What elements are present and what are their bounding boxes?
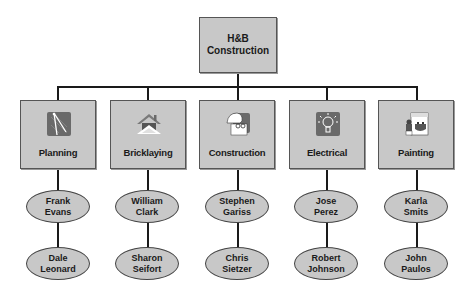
staff-last: Perez [314, 207, 338, 218]
staff-john-paulos: John Paulos [384, 247, 448, 280]
staff-first: Frank [46, 196, 71, 207]
root-connector [237, 72, 239, 87]
staff-robert-johnson: Robert Johnson [294, 247, 358, 280]
staff-first: Karla [405, 196, 428, 207]
lightbulb-icon [315, 111, 341, 137]
dept-label-planning: Planning [21, 147, 95, 158]
root-node: H&B Construction [199, 17, 277, 73]
dept-construction: Construction [199, 100, 275, 169]
staff-stephen-gariss: Stephen Gariss [205, 190, 269, 223]
staff-last: Leonard [40, 264, 76, 275]
hardhat-worker-icon [225, 111, 251, 137]
dept-label-bricklaying: Bricklaying [111, 147, 185, 158]
dept-planning: Planning [20, 100, 96, 169]
staff-first: Chris [225, 253, 248, 264]
staff-dale-leonard: Dale Leonard [26, 247, 90, 280]
staff-last: Clark [136, 207, 159, 218]
staff-last: Johnson [307, 264, 345, 275]
staff-first: Robert [312, 253, 341, 264]
staff-william-clark: William Clark [115, 190, 179, 223]
staff-last: Sietzer [222, 264, 252, 275]
connector-bricklaying [147, 86, 149, 100]
staff-first: Stephen [219, 196, 255, 207]
staff-first: John [405, 253, 427, 264]
connector-electrical [326, 86, 328, 100]
staff-jose-perez: Jose Perez [294, 190, 358, 223]
staff-first: Dale [48, 253, 67, 264]
dept-label-electrical: Electrical [290, 147, 364, 158]
connector-painting [416, 86, 418, 100]
staff-last: Paulos [401, 264, 431, 275]
drafting-compass-icon [46, 111, 72, 137]
staff-last: Gariss [223, 207, 251, 218]
dept-painting: Painting [378, 100, 454, 169]
staff-first: Jose [316, 196, 337, 207]
house-roof-icon [136, 111, 162, 137]
staff-sharon-seifort: Sharon Seifort [115, 247, 179, 280]
staff-frank-evans: Frank Evans [26, 190, 90, 223]
dept-label-construction: Construction [200, 147, 274, 158]
root-title-line1: H&B [207, 33, 269, 46]
painter-icon [404, 111, 430, 137]
staff-last: Evans [45, 207, 72, 218]
dept-bricklaying: Bricklaying [110, 100, 186, 169]
staff-last: Smits [404, 207, 429, 218]
staff-chris-sietzer: Chris Sietzer [205, 247, 269, 280]
dept-label-painting: Painting [379, 147, 453, 158]
connector-planning [57, 86, 59, 100]
connector-construction [237, 86, 239, 100]
staff-last: Seifort [133, 264, 162, 275]
root-title-line2: Construction [207, 45, 269, 58]
dept-electrical: Electrical [289, 100, 365, 169]
staff-first: William [131, 196, 162, 207]
staff-first: Sharon [131, 253, 162, 264]
staff-karla-smits: Karla Smits [384, 190, 448, 223]
